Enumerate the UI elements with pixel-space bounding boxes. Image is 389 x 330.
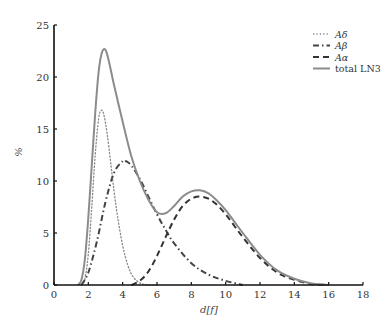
- x-tick-label: 2: [85, 289, 91, 300]
- x-tick-label: 18: [357, 289, 370, 300]
- legend: AδAβAαtotal LN3: [313, 29, 381, 75]
- x-tick-label: 6: [154, 289, 160, 300]
- y-tick-label: 20: [36, 72, 49, 83]
- axes: 0510152025024681012141618: [36, 20, 369, 301]
- y-tick-label: 0: [43, 280, 49, 291]
- x-tick-label: 10: [219, 289, 232, 300]
- legend-label-0: Aδ: [334, 29, 348, 40]
- y-axis-label: %: [13, 147, 24, 157]
- y-tick-label: 10: [36, 176, 49, 187]
- y-tick-label: 5: [43, 228, 49, 239]
- chart-canvas: 0510152025024681012141618 AδAβAαtotal LN…: [0, 0, 389, 330]
- x-tick-label: 4: [119, 289, 125, 300]
- x-axis-label: d[f]: [200, 304, 218, 315]
- series-line-3: [78, 49, 329, 285]
- plot-series: [78, 49, 329, 285]
- series-line-2: [131, 197, 328, 285]
- series-line-1: [81, 160, 242, 285]
- legend-label-3: total LN3: [335, 63, 381, 74]
- legend-label-1: Aβ: [334, 40, 348, 51]
- x-tick-label: 12: [254, 289, 267, 300]
- legend-label-2: Aα: [334, 52, 349, 63]
- y-tick-label: 25: [36, 20, 49, 31]
- x-tick-label: 0: [51, 289, 57, 300]
- x-tick-label: 16: [322, 289, 335, 300]
- y-tick-label: 15: [36, 124, 49, 135]
- x-tick-label: 8: [188, 289, 194, 300]
- x-tick-label: 14: [288, 289, 301, 300]
